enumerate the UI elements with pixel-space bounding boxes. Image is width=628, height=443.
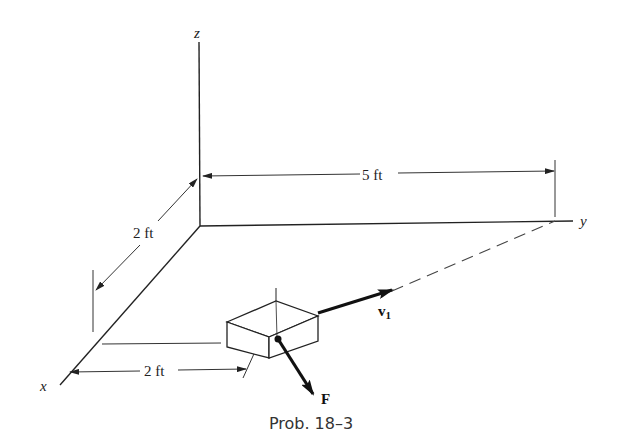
y-axis: [200, 221, 573, 226]
problem-caption: Prob. 18–3: [269, 414, 353, 433]
path-dashed-line: [392, 221, 555, 291]
block: [227, 288, 318, 358]
x-axis-label: x: [39, 378, 47, 394]
extension-line: [102, 343, 221, 344]
dimension-arrow-right: [398, 171, 554, 173]
dimension-2ft-x: [93, 179, 197, 332]
dimension-2ft-x-label: 2 ft: [133, 225, 154, 241]
y-axis-label: y: [578, 213, 587, 229]
velocity-label: v1: [378, 303, 391, 321]
diagram-canvas: z y x 5 ft 2 ft 2 ft v1 F Prob. 18–3: [0, 0, 628, 443]
dimension-2ft-offset-label: 2 ft: [144, 363, 165, 379]
x-axis: [60, 226, 200, 385]
dimension-arrow-up: [158, 179, 197, 221]
dimension-arrow-left: [203, 174, 360, 176]
dimension-arrow-left: [70, 371, 140, 372]
force-label: F: [321, 391, 330, 407]
dimension-arrow-down: [96, 245, 140, 290]
dimension-arrow-right: [178, 369, 246, 370]
dimension-5ft-label: 5 ft: [362, 167, 383, 183]
z-axis-label: z: [193, 25, 200, 41]
z-axis: [199, 42, 200, 226]
